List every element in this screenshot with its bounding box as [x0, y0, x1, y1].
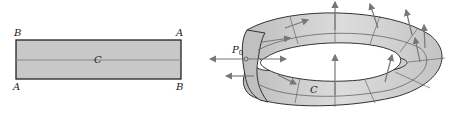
corner-label-top-right: A [176, 28, 183, 38]
corner-label-top-left: B [14, 28, 21, 38]
point-label-subscript: 0 [239, 49, 243, 57]
point-label-main: P [232, 44, 239, 55]
centerline-label: C [94, 55, 102, 65]
curve-label: C [310, 85, 318, 95]
mobius-diagram [0, 0, 456, 115]
corner-label-bottom-right: B [176, 82, 183, 92]
corner-label-bottom-left: A [13, 82, 20, 92]
point-label: P0 [232, 45, 243, 57]
